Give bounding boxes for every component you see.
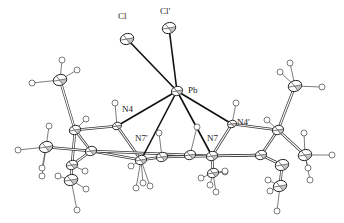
atom-ellipsoid-n7 xyxy=(205,150,219,162)
bond-inner xyxy=(60,80,75,130)
hydrogen-atom-icon xyxy=(55,173,61,179)
hydrogen-atom-icon xyxy=(265,177,271,183)
hydrogen-atom-icon xyxy=(29,80,35,86)
bond-inner xyxy=(75,126,117,130)
hydrogen-atom-icon xyxy=(305,165,311,171)
atom-ellipsoid-c6 xyxy=(63,173,80,188)
hydrogen-atom-icon xyxy=(207,182,213,188)
hydrogen-atom-icon xyxy=(83,186,89,192)
hydrogen-atom-icon xyxy=(82,168,88,174)
hydrogen-atom-icon xyxy=(156,130,162,136)
atom-ellipsoid-cl2 xyxy=(161,21,178,36)
hydrogen-atom-icon xyxy=(213,189,219,195)
hydrogen-atom-icon xyxy=(83,116,89,122)
hydrogen-atom-icon xyxy=(307,177,313,183)
hydrogen-atom-icon xyxy=(301,130,307,136)
hydrogen-atom-icon xyxy=(274,208,280,214)
hydrogen-atom-icon xyxy=(287,60,293,66)
label-pb: Pb xyxy=(188,85,198,95)
hydrogen-atom-icon xyxy=(59,57,65,63)
molecular-structure-diagram: Cl Cl′ Pb N4 N7′ N7 N4′ xyxy=(0,0,344,223)
hydrogen-atom-icon xyxy=(233,100,239,106)
hydrogen-atom-icon xyxy=(112,100,118,106)
hydrogen-atom-icon xyxy=(194,124,200,130)
hydrogen-atom-icon xyxy=(46,123,52,129)
hydrogen-atom-icon xyxy=(222,168,228,174)
label-cl-prime: Cl′ xyxy=(160,6,171,16)
hydrogen-atom-icon xyxy=(39,165,45,171)
hydrogen-atom-icon xyxy=(133,185,139,191)
heavy-atoms-layer xyxy=(38,21,314,194)
hydrogen-atom-icon xyxy=(277,69,283,75)
atom-ellipsoid-c9 xyxy=(206,167,220,179)
hydrogen-atom-icon xyxy=(198,175,204,181)
hydrogen-atom-icon xyxy=(264,117,270,123)
hydrogen-atom-icon xyxy=(74,207,80,213)
coordination-bond xyxy=(127,39,177,91)
hydrogen-atom-icon xyxy=(140,180,146,186)
label-cl: Cl xyxy=(118,11,127,21)
coordination-bond xyxy=(169,28,177,91)
label-n7: N7 xyxy=(207,133,218,143)
hydrogen-atom-icon xyxy=(267,188,273,194)
bond-inner xyxy=(278,86,295,130)
hydrogen-atom-icon xyxy=(15,147,21,153)
atom-ellipsoid-c12 xyxy=(254,149,268,161)
atom-ellipsoid-c2 xyxy=(52,73,69,88)
hydrogen-atom-icon xyxy=(147,183,153,189)
atom-ellipsoid-c15 xyxy=(272,179,289,194)
hydrogen-atom-icon xyxy=(74,67,80,73)
atom-ellipsoid-n7p xyxy=(134,154,148,166)
bond-inner xyxy=(117,126,141,160)
atom-ellipsoid-c14 xyxy=(274,158,291,173)
hydrogen-atom-icon xyxy=(319,84,325,90)
hydrogen-atom-icon xyxy=(329,152,335,158)
hydrogen-atom-icon xyxy=(39,173,45,179)
atom-ellipsoid-n4p xyxy=(226,119,237,129)
label-n4-prime: N4′ xyxy=(237,117,250,127)
atom-ellipsoid-c8 xyxy=(183,149,197,161)
label-n4: N4 xyxy=(122,104,133,114)
atom-ellipsoid-c3 xyxy=(38,140,55,155)
label-n7-prime: N7′ xyxy=(135,133,148,143)
hydrogen-atom-icon xyxy=(128,163,134,169)
